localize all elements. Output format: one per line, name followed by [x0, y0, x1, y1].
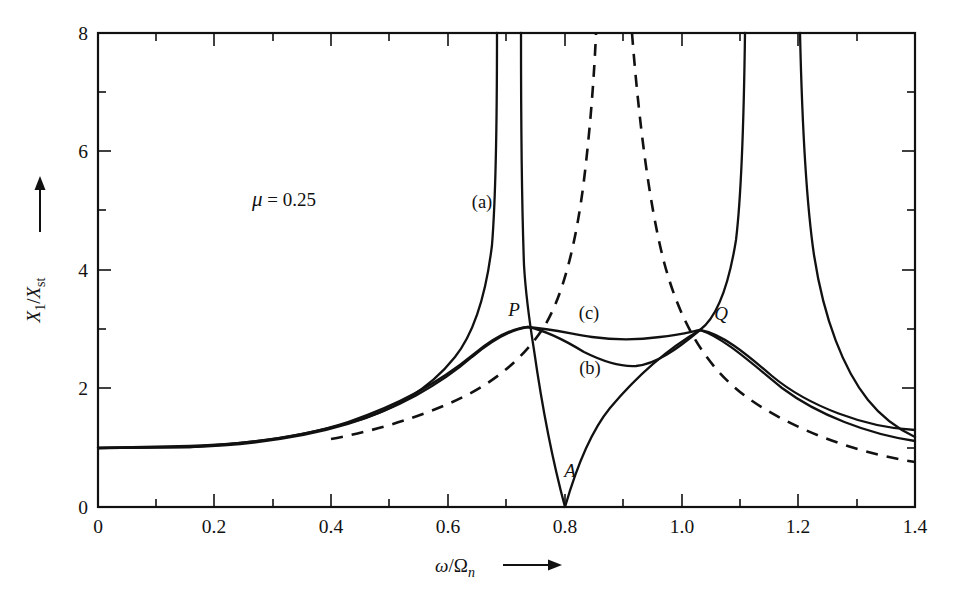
y-axis-1-sub: 1	[33, 304, 48, 311]
point-label-A: A	[562, 460, 576, 481]
x-tick-label-5: 1.0	[670, 516, 694, 537]
svg-text:ω/Ωn: ω/Ωn	[435, 555, 475, 580]
point-label-P: P	[507, 299, 520, 320]
y-tick-labels: 0 2 4 6 8	[78, 23, 88, 518]
y-tick-label-2: 4	[78, 260, 88, 281]
x-axis-Omega: Ω	[454, 555, 468, 576]
y-axis-arrow-head	[35, 176, 46, 190]
y-tick-label-0: 0	[78, 497, 88, 518]
x-tick-label-7: 1.4	[903, 516, 928, 537]
mu-annotation: μ = 0.25	[251, 187, 316, 211]
curve-a-right	[700, 33, 745, 330]
x-axis-top-ticks	[156, 33, 857, 46]
curve-dashed-left	[331, 33, 596, 439]
curve-label-b: (b)	[579, 358, 601, 379]
chart-svg: 0 0.2 0.4 0.6 0.8 1.0 1.2 1.4 0 2 4 6 8 …	[0, 0, 961, 593]
y-axis-major-ticks	[98, 33, 111, 507]
x-axis-n-sub: n	[468, 565, 475, 580]
x-tick-label-3: 0.6	[436, 516, 461, 537]
curve-a-mid	[521, 33, 700, 507]
x-axis-title: ω/Ωn	[435, 555, 562, 580]
y-tick-label-3: 6	[78, 141, 88, 162]
x-tick-label-6: 1.2	[786, 516, 810, 537]
x-tick-label-1: 0.2	[202, 516, 226, 537]
x-axis-arrow-head	[548, 560, 562, 571]
y-tick-label-1: 2	[78, 378, 88, 399]
curve-dashed-right	[632, 33, 915, 462]
x-tick-label-0: 0	[93, 516, 103, 537]
x-tick-label-4: 0.8	[553, 516, 577, 537]
curve-b	[98, 327, 915, 448]
curve-a-far-right	[800, 33, 915, 437]
curve-label-c: (c)	[579, 303, 600, 324]
curve-label-a: (a)	[472, 192, 493, 213]
y-tick-label-4: 8	[78, 23, 88, 44]
y-axis-right-ticks	[902, 92, 915, 448]
svg-text:X1/Xst: X1/Xst	[23, 277, 48, 323]
y-axis-st-sub: st	[33, 277, 48, 286]
x-tick-label-2: 0.4	[319, 516, 344, 537]
plot-frame	[98, 33, 915, 507]
curve-c	[98, 327, 915, 448]
y-axis-title: X1/Xst	[23, 176, 48, 323]
x-axis-omega: ω	[435, 555, 448, 576]
point-label-Q: Q	[714, 303, 728, 324]
x-tick-labels: 0 0.2 0.4 0.6 0.8 1.0 1.2 1.4	[93, 516, 927, 537]
curve-a-left	[98, 33, 497, 448]
figure-container: 0 0.2 0.4 0.6 0.8 1.0 1.2 1.4 0 2 4 6 8 …	[0, 0, 961, 593]
x-axis-minor-ticks	[156, 499, 857, 507]
